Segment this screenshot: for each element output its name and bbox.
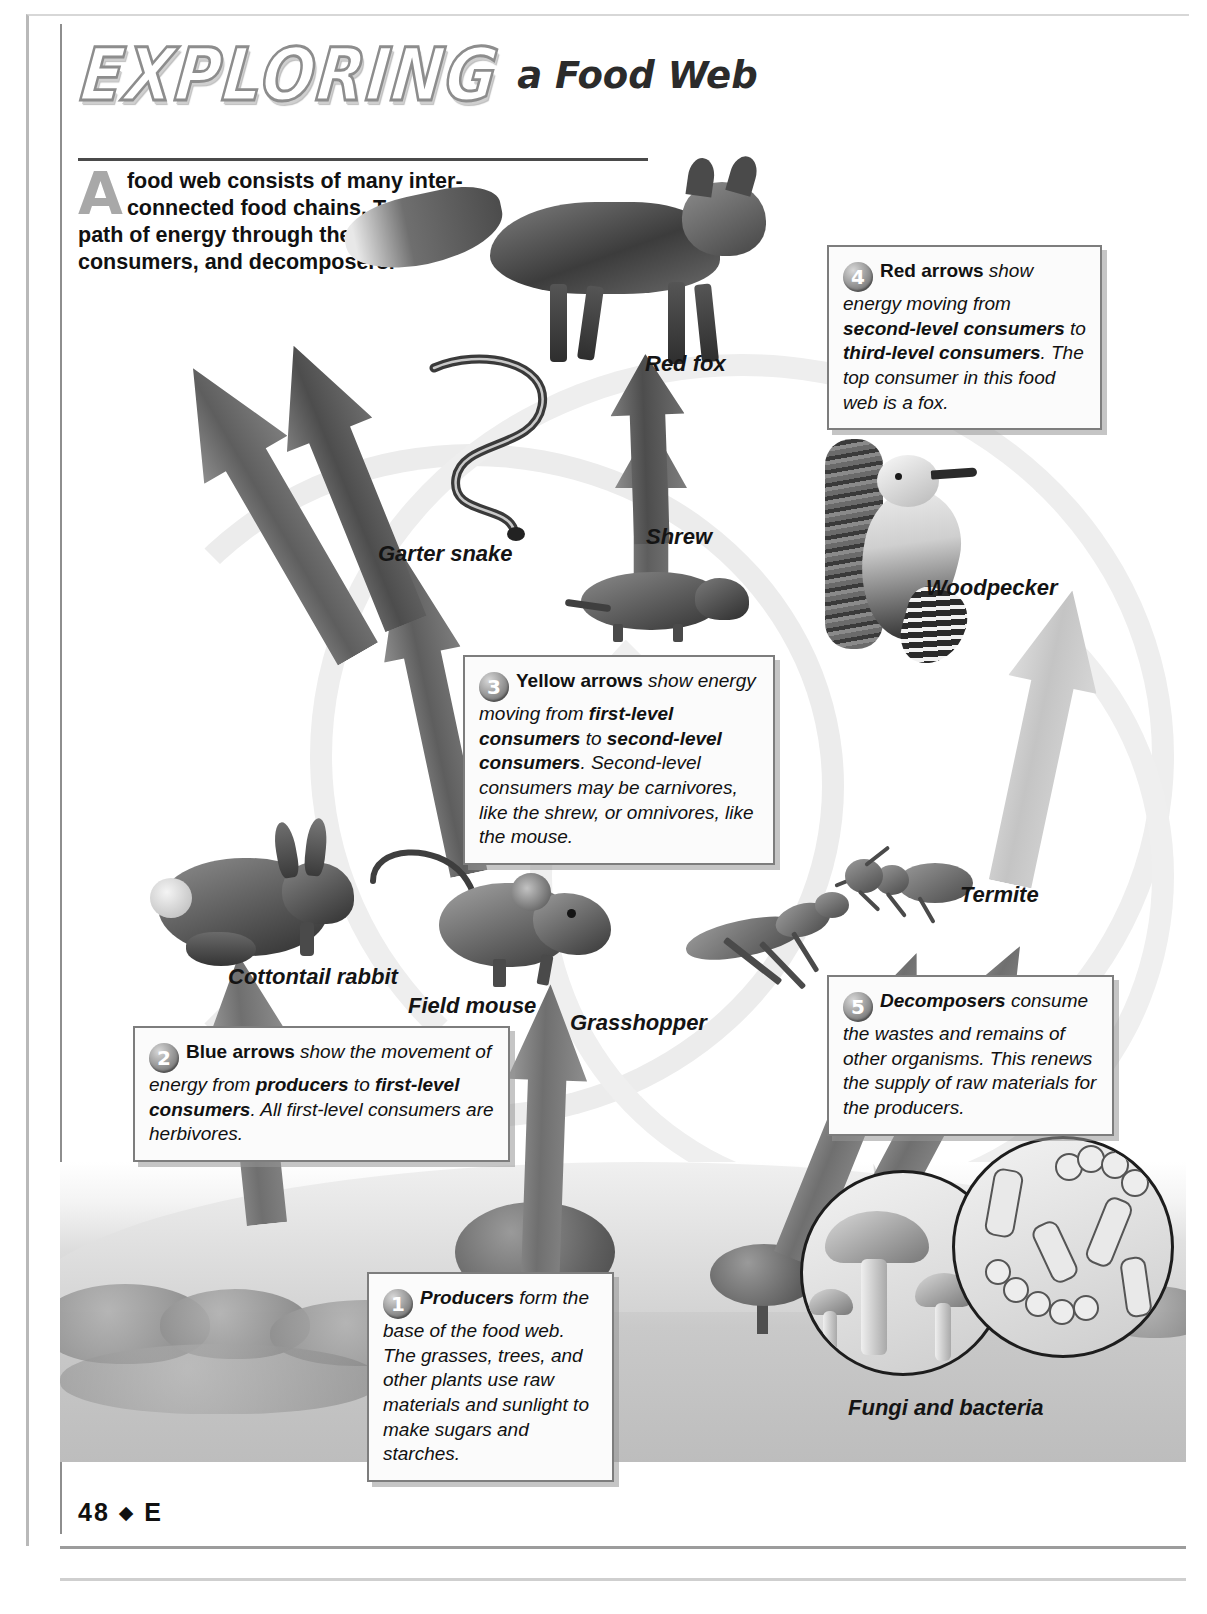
bacteria-coccus — [1049, 1299, 1075, 1325]
inset-bacteria — [952, 1136, 1174, 1358]
callout-number-2: 2 — [149, 1043, 179, 1073]
folio-number: 48 — [78, 1498, 110, 1526]
callout-lead-5: Decomposers — [880, 990, 1006, 1011]
woodpecker-head — [877, 455, 939, 507]
folio-diamond-icon: ◆ — [119, 1502, 136, 1523]
label-termite: Termite — [960, 882, 1039, 908]
callout-number-5: 5 — [843, 992, 873, 1022]
label-shrew: Shrew — [646, 524, 712, 550]
callout-decomposers: 5Decomposers consume the wastes and rema… — [827, 975, 1114, 1136]
callout-number-3: 3 — [479, 672, 509, 702]
callout-lead-2: Blue arrows — [186, 1041, 295, 1062]
page-folio: 48 ◆ E — [78, 1498, 163, 1527]
snake-drawing — [410, 344, 560, 574]
label-red-fox: Red fox — [645, 351, 726, 377]
callout-producers: 1Producers form the base of the food web… — [367, 1272, 614, 1482]
bacteria-rod — [1029, 1218, 1081, 1286]
mouse-eye — [567, 909, 576, 918]
animal-termite — [835, 829, 985, 929]
mushroom-cap — [825, 1211, 929, 1263]
textbook-page: EXPLORINGa Food Web A food web consists … — [0, 0, 1207, 1614]
animal-cottontail-rabbit — [150, 824, 360, 984]
woodpecker-beak — [931, 467, 978, 479]
callout-yellow-arrows: 3Yellow arrows show energy moving from f… — [463, 655, 775, 865]
rabbit-hind-foot — [186, 932, 256, 966]
fox-head — [682, 182, 766, 256]
label-fungi-and-bacteria: Fungi and bacteria — [848, 1395, 1044, 1421]
bacteria-rod — [1119, 1255, 1153, 1318]
callout-body-2b: to — [349, 1074, 375, 1095]
bacteria-coccus — [1121, 1169, 1149, 1197]
rabbit-front-leg — [300, 922, 314, 956]
mushroom-stem — [823, 1311, 837, 1361]
mouse-leg — [493, 959, 506, 987]
shrew-head — [695, 578, 749, 620]
page-bottom-rule — [60, 1546, 1186, 1549]
arrow-red-shrew-to-fox — [608, 353, 689, 545]
animal-field-mouse — [415, 859, 625, 999]
folio-letter: E — [144, 1498, 163, 1526]
rabbit-tail — [150, 878, 192, 918]
callout-number-4: 4 — [843, 262, 873, 292]
bush — [60, 1344, 380, 1414]
callout-body-4b: to — [1065, 318, 1086, 339]
animal-shrew — [565, 564, 745, 654]
callout-lead-1: Producers — [420, 1287, 514, 1308]
callout-number-1: 1 — [383, 1289, 413, 1319]
label-cottontail-rabbit: Cottontail rabbit — [228, 964, 398, 990]
fox-ear — [685, 156, 716, 197]
animal-red-fox — [430, 174, 790, 364]
bacteria-coccus — [1073, 1295, 1099, 1321]
fox-leg — [577, 285, 604, 361]
woodpecker-eye — [895, 473, 902, 480]
bacteria-coccus — [1025, 1291, 1051, 1317]
callout-lead-4: Red arrows — [880, 260, 983, 281]
callout-body-3b: to — [580, 728, 606, 749]
page-bottom-rule-secondary — [60, 1578, 1186, 1581]
mushroom-stem — [861, 1259, 887, 1355]
callout-emph-4b: third-level consumers — [843, 342, 1040, 363]
callout-blue-arrows: 2Blue arrows show the movement of energy… — [133, 1026, 510, 1162]
animal-garter-snake — [410, 344, 560, 554]
label-field-mouse: Field mouse — [408, 993, 536, 1019]
mushroom-stem — [935, 1303, 951, 1361]
mouse-ear — [511, 873, 551, 911]
callout-red-arrows: 4Red arrows show energy moving from seco… — [827, 245, 1102, 430]
label-grasshopper: Grasshopper — [570, 1010, 707, 1036]
termite-leg — [858, 890, 881, 912]
fox-tail — [338, 178, 509, 280]
callout-emph-4a: second-level consumers — [843, 318, 1065, 339]
callout-body-1: form the base of the food web. The grass… — [383, 1287, 589, 1464]
termite-leg — [885, 892, 907, 918]
animal-woodpecker — [825, 439, 1015, 669]
callout-lead-3: Yellow arrows — [516, 670, 643, 691]
label-garter-snake: Garter snake — [378, 541, 513, 567]
fox-ear — [725, 153, 760, 197]
shrew-leg — [673, 624, 683, 642]
label-woodpecker: Woodpecker — [926, 575, 1058, 601]
grasshopper-leg — [791, 931, 820, 973]
callout-emph-2a: producers — [256, 1074, 349, 1095]
shrew-leg — [613, 624, 623, 642]
bacteria-rod — [983, 1167, 1024, 1239]
